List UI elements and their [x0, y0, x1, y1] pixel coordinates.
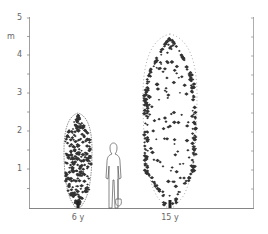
y-tick-label-4: 4 [10, 51, 22, 59]
right-axis [251, 17, 254, 208]
tree-15-years [142, 34, 198, 208]
left-axis [27, 17, 30, 208]
y-tick-label-1: 1 [10, 165, 22, 173]
diagram-canvas [0, 0, 268, 234]
label-15-years: 15 y [150, 214, 190, 222]
y-tick-label-3: 3 [10, 89, 22, 97]
person-figure [106, 143, 121, 208]
label-6-years: 6 y [58, 214, 98, 222]
shrub-6-years [64, 113, 93, 208]
y-tick-label-2: 2 [10, 127, 22, 135]
growth-diagram: m 5 4 3 2 1 6 y 15 y [0, 0, 268, 234]
y-tick-label-5: 5 [10, 14, 22, 22]
unit-label: m [7, 33, 15, 41]
